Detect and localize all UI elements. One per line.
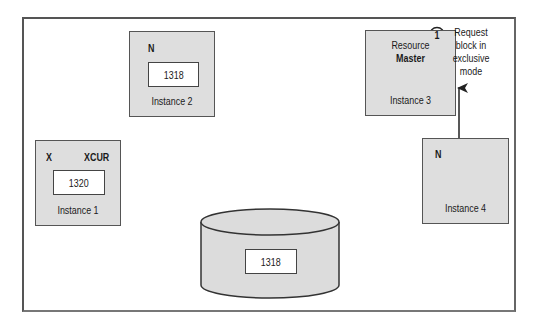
resource-master-label-line2: Master [373, 52, 449, 64]
instance-4-label: Instance 4 [429, 202, 501, 214]
step-number: 1 [431, 29, 443, 41]
step-text-line: block in [450, 39, 493, 51]
instance-3-box: Resource Master Instance 3 [365, 30, 456, 116]
disk-block-value: 1318 [245, 249, 297, 274]
instance-4-box: N Instance 4 [422, 138, 509, 224]
step-text-line: Request [450, 26, 493, 38]
instance-2-box: N 1318 Instance 2 [129, 31, 215, 117]
instance-2-lock-mode: N [148, 42, 154, 54]
step-text-line: exclusive [450, 52, 493, 64]
step-text-line: mode [450, 65, 493, 77]
step-description: Request block in exclusive mode [446, 26, 496, 77]
instance-2-block-value: 1318 [148, 62, 199, 87]
instance-1-block-state: XCUR [84, 151, 109, 163]
instance-4-lock-mode: N [435, 148, 441, 160]
instance-1-block-value: 1320 [53, 170, 105, 195]
instance-1-lock-mode: X [46, 151, 52, 163]
request-arrow [457, 83, 468, 138]
instance-3-label: Instance 3 [373, 94, 449, 106]
instance-1-label: Instance 1 [42, 204, 113, 216]
instance-2-label: Instance 2 [136, 95, 207, 107]
instance-1-box: X XCUR 1320 Instance 1 [35, 140, 121, 226]
